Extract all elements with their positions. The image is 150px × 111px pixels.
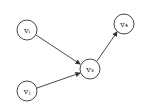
graph-diagram: vᵢ vⱼ v₃ v₄ — [0, 0, 150, 111]
edge-vj-v3 — [37, 73, 80, 88]
node-v4: v₄ — [114, 14, 134, 34]
node-label: v₄ — [119, 20, 128, 29]
edge-v3-v4 — [97, 32, 117, 61]
node-label: vᵢ — [23, 26, 31, 35]
node-vi: vᵢ — [17, 20, 37, 40]
node-label: vⱼ — [23, 87, 31, 96]
node-vj: vⱼ — [17, 81, 37, 101]
node-label: v₃ — [85, 65, 94, 74]
edge-vi-v3 — [36, 35, 80, 64]
node-v3: v₃ — [80, 59, 100, 79]
